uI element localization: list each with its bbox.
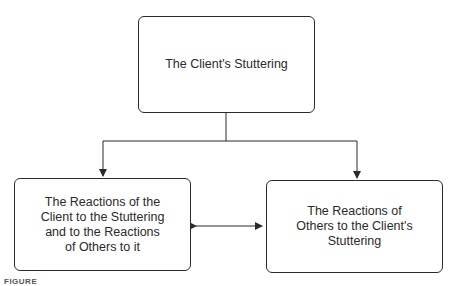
node-others-reactions: The Reactions of Others to the Client's … xyxy=(266,180,443,273)
node-clients-stuttering: The Client's Stuttering xyxy=(138,16,315,113)
node-label: The Reactions of the Client to the Stutt… xyxy=(40,195,165,255)
node-label: The Client's Stuttering xyxy=(165,57,288,72)
figure-caption: FIGURE xyxy=(4,277,37,286)
node-client-reactions: The Reactions of the Client to the Stutt… xyxy=(14,178,191,271)
node-label: The Reactions of Others to the Client's … xyxy=(290,204,420,249)
